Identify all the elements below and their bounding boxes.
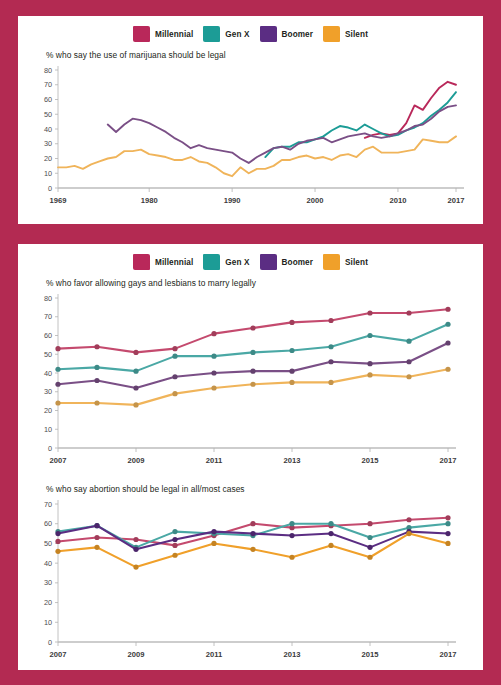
data-point	[172, 529, 177, 534]
data-point	[445, 367, 450, 372]
data-point	[133, 547, 138, 552]
data-point	[94, 535, 99, 540]
chart-marijuana: 0102030405060708019691980199020002010201…	[18, 62, 483, 212]
data-point	[211, 370, 216, 375]
y-tick-label: 50	[44, 350, 52, 359]
legend-label-boomer-2: Boomer	[282, 258, 314, 267]
data-point	[328, 543, 333, 548]
chart-title-marriage: % who favor allowing gays and lesbians t…	[46, 278, 483, 288]
legend-item-genx-2[interactable]: Gen X	[203, 254, 249, 270]
y-tick-label: 80	[44, 294, 52, 303]
y-tick-label: 10	[44, 169, 52, 178]
data-point	[172, 537, 177, 542]
data-point	[406, 531, 411, 536]
data-point	[133, 350, 138, 355]
data-point	[172, 374, 177, 379]
data-point	[94, 365, 99, 370]
data-point	[328, 531, 333, 536]
data-point	[211, 385, 216, 390]
legend-item-silent[interactable]: Silent	[323, 26, 368, 42]
legend-swatch-millennial	[133, 26, 150, 42]
y-tick-label: 70	[44, 500, 52, 509]
y-tick-label: 30	[44, 139, 52, 148]
x-tick-label: 2009	[128, 456, 145, 465]
data-point	[250, 521, 255, 526]
data-point	[55, 400, 60, 405]
y-tick-label: 20	[44, 598, 52, 607]
x-tick-label: 1969	[50, 196, 67, 205]
x-tick-label: 1990	[224, 196, 241, 205]
legend-swatch-boomer-2	[260, 254, 277, 270]
data-point	[367, 555, 372, 560]
y-tick-label: 0	[48, 638, 52, 647]
legend-item-millennial[interactable]: Millennial	[133, 26, 193, 42]
legend-label-silent: Silent	[345, 30, 368, 39]
data-point	[55, 382, 60, 387]
chart-marriage-svg: 0102030405060708020072009201120132015201…	[18, 290, 478, 472]
data-point	[445, 515, 450, 520]
y-tick-label: 60	[44, 95, 52, 104]
data-point	[250, 547, 255, 552]
y-tick-label: 0	[48, 184, 52, 193]
data-point	[55, 549, 60, 554]
chart-marriage: 0102030405060708020072009201120132015201…	[18, 290, 483, 472]
y-tick-label: 40	[44, 125, 52, 134]
legend-item-boomer-2[interactable]: Boomer	[260, 254, 314, 270]
data-point	[328, 380, 333, 385]
x-tick-label: 2017	[440, 456, 457, 465]
legend-swatch-genx-2	[203, 254, 220, 270]
x-tick-label: 2017	[440, 650, 457, 659]
data-point	[172, 553, 177, 558]
legend-bottom: Millennial Gen X Boomer Silent	[18, 254, 483, 270]
legend-label-genx-2: Gen X	[225, 258, 249, 267]
x-tick-label: 2013	[284, 456, 301, 465]
data-point	[406, 359, 411, 364]
legend-label-silent-2: Silent	[345, 258, 368, 267]
data-point	[211, 331, 216, 336]
series-line-gen-x	[58, 324, 448, 371]
data-point	[211, 529, 216, 534]
x-tick-label: 2009	[128, 650, 145, 659]
legend-swatch-genx	[203, 26, 220, 42]
data-point	[367, 545, 372, 550]
data-point	[289, 348, 294, 353]
data-point	[289, 320, 294, 325]
data-point	[94, 523, 99, 528]
chart-title-abortion: % who say abortion should be legal in al…	[46, 484, 483, 494]
legend-item-genx[interactable]: Gen X	[203, 26, 249, 42]
legend-swatch-boomer	[260, 26, 277, 42]
data-point	[172, 346, 177, 351]
y-tick-label: 70	[44, 80, 52, 89]
chart-title-marijuana: % who say the use of marijuana should be…	[46, 50, 483, 60]
data-point	[367, 333, 372, 338]
series-line-millennial	[58, 309, 448, 352]
data-point	[289, 369, 294, 374]
data-point	[328, 318, 333, 323]
y-tick-label: 80	[44, 66, 52, 75]
data-point	[172, 391, 177, 396]
data-point	[133, 385, 138, 390]
x-tick-label: 2017	[448, 196, 465, 205]
legend-label-boomer: Boomer	[282, 30, 314, 39]
legend-swatch-millennial-2	[133, 254, 150, 270]
data-point	[250, 531, 255, 536]
chart-abortion-svg: 010203040506070200720092011201320152017	[18, 496, 478, 666]
page-frame: Millennial Gen X Boomer Silent % who say…	[0, 0, 501, 685]
data-point	[328, 344, 333, 349]
y-tick-label: 50	[44, 539, 52, 548]
legend-item-boomer[interactable]: Boomer	[260, 26, 314, 42]
data-point	[367, 310, 372, 315]
legend-item-millennial-2[interactable]: Millennial	[133, 254, 193, 270]
series-line-boomer	[108, 105, 456, 163]
chart-marijuana-svg: 0102030405060708019691980199020002010201…	[18, 62, 478, 212]
legend-label-millennial: Millennial	[155, 30, 193, 39]
data-point	[289, 555, 294, 560]
panel-marijuana: Millennial Gen X Boomer Silent % who say…	[18, 16, 483, 224]
legend-swatch-silent-2	[323, 254, 340, 270]
panel-marriage-abortion: Millennial Gen X Boomer Silent % who fav…	[18, 244, 483, 670]
legend-item-silent-2[interactable]: Silent	[323, 254, 368, 270]
data-point	[289, 521, 294, 526]
data-point	[328, 359, 333, 364]
y-tick-label: 30	[44, 387, 52, 396]
data-point	[211, 541, 216, 546]
